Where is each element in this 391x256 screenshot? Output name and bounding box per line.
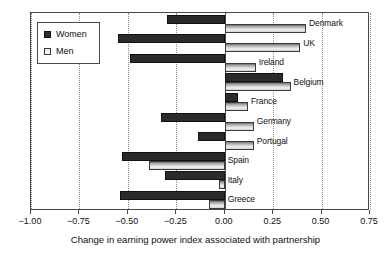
x-tick-label-7: 0.75 <box>360 216 378 226</box>
bar-women-germany <box>161 113 225 122</box>
men-swatch-icon <box>44 48 51 55</box>
bar-men-denmark <box>225 24 306 33</box>
bar-row: Germany <box>31 112 368 132</box>
legend-label-women: Women <box>56 30 87 39</box>
bar-men-portugal <box>225 141 254 150</box>
country-label-belgium: Belgium <box>294 78 324 87</box>
legend-item-women: Women <box>44 30 87 39</box>
bar-men-spain <box>149 161 225 170</box>
x-tick-label-5: 0.25 <box>263 216 281 226</box>
x-tick-label-1: −0.75 <box>67 216 90 226</box>
bar-men-france <box>225 102 248 111</box>
bar-men-germany <box>225 122 254 131</box>
bar-men-italy <box>219 180 225 189</box>
bar-row: Belgium <box>31 73 368 93</box>
bar-men-uk <box>225 43 301 52</box>
x-tick-4 <box>224 210 225 214</box>
country-label-italy: Italy <box>228 176 243 185</box>
bar-women-portugal <box>198 132 225 141</box>
bar-women-spain <box>122 152 225 161</box>
x-tick-label-3: −0.25 <box>164 216 187 226</box>
chart-legend: Women Men <box>37 22 100 64</box>
bar-men-ireland <box>225 63 256 72</box>
gridline-7 <box>370 13 371 209</box>
country-label-france: France <box>251 97 277 106</box>
bar-men-greece <box>209 200 224 209</box>
x-tick-label-2: −0.50 <box>115 216 138 226</box>
country-label-ireland: Ireland <box>259 58 284 67</box>
x-tick-1 <box>78 210 79 214</box>
bar-row: France <box>31 92 368 112</box>
bar-women-france <box>225 93 239 102</box>
bar-women-greece <box>120 191 225 200</box>
country-label-spain: Spain <box>228 156 249 165</box>
bar-men-belgium <box>225 82 291 91</box>
bar-row: Portugal <box>31 132 368 152</box>
country-label-denmark: Denmark <box>309 19 343 28</box>
legend-item-men: Men <box>44 47 74 56</box>
bar-row: Italy <box>31 171 368 191</box>
bar-women-ireland <box>130 54 225 63</box>
bar-women-uk <box>118 34 225 43</box>
x-tick-label-4: 0.00 <box>215 216 233 226</box>
x-tick-6 <box>321 210 322 214</box>
x-tick-3 <box>175 210 176 214</box>
x-tick-label-6: 0.50 <box>312 216 330 226</box>
bar-women-belgium <box>225 73 283 82</box>
bar-row: Greece <box>31 190 368 210</box>
legend-label-men: Men <box>56 47 74 56</box>
country-label-germany: Germany <box>257 117 291 126</box>
bar-row: Spain <box>31 151 368 171</box>
women-swatch-icon <box>44 31 51 38</box>
country-label-portugal: Portugal <box>257 137 288 146</box>
bar-women-denmark <box>167 15 225 24</box>
x-tick-5 <box>272 210 273 214</box>
x-axis-title: Change in earning power index associated… <box>0 234 391 245</box>
country-label-greece: Greece <box>228 195 255 204</box>
bar-women-italy <box>165 171 225 180</box>
x-tick-2 <box>127 210 128 214</box>
x-tick-0 <box>30 210 31 214</box>
x-tick-label-0: −1.00 <box>19 216 42 226</box>
country-label-uk: UK <box>303 39 315 48</box>
x-tick-7 <box>369 210 370 214</box>
bar-chart: DenmarkUKIrelandBelgiumFranceGermanyPort… <box>0 0 391 256</box>
